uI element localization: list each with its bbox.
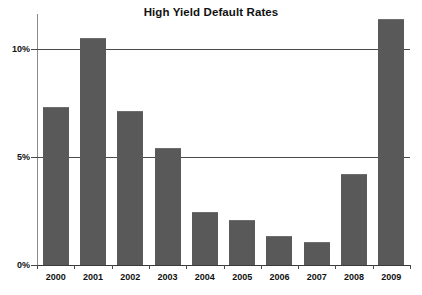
bar-chart: High Yield Default Rates 0% 5% 10% 20002… <box>0 0 422 295</box>
x-tick-5 <box>224 265 225 269</box>
x-axis-label-2002: 2002 <box>120 272 140 282</box>
y-axis-labels: 0% 5% 10% <box>0 0 30 295</box>
bar-2002 <box>117 111 143 265</box>
x-tick-9 <box>373 265 374 269</box>
x-tick-1 <box>74 265 75 269</box>
bar-2000 <box>43 107 69 265</box>
x-axis-label-2006: 2006 <box>269 272 289 282</box>
bar-2004 <box>192 212 218 265</box>
x-tick-4 <box>186 265 187 269</box>
plot-area <box>37 14 410 265</box>
x-axis-label-2007: 2007 <box>307 272 327 282</box>
x-tick-6 <box>261 265 262 269</box>
x-tick-7 <box>298 265 299 269</box>
bar-2003 <box>155 148 181 265</box>
y-axis-label-1: 5% <box>2 152 30 162</box>
y-axis-label-0: 0% <box>2 260 30 270</box>
x-axis-label-2001: 2001 <box>83 272 103 282</box>
x-axis-ticks <box>37 265 410 270</box>
x-axis-label-2004: 2004 <box>195 272 215 282</box>
bar-2009 <box>378 19 404 265</box>
x-tick-0 <box>37 265 38 269</box>
bar-2005 <box>229 220 255 265</box>
x-tick-8 <box>335 265 336 269</box>
bar-2006 <box>266 236 292 265</box>
x-axis-label-2000: 2000 <box>46 272 66 282</box>
x-tick-10 <box>410 265 411 269</box>
x-tick-2 <box>112 265 113 269</box>
bar-2008 <box>341 174 367 265</box>
x-axis-label-2005: 2005 <box>232 272 252 282</box>
y-axis-label-2: 10% <box>2 44 30 54</box>
x-axis-label-2009: 2009 <box>381 272 401 282</box>
x-tick-3 <box>149 265 150 269</box>
bar-2007 <box>304 242 330 265</box>
x-axis-label-2008: 2008 <box>344 272 364 282</box>
x-axis-label-2003: 2003 <box>158 272 178 282</box>
bar-2001 <box>80 38 106 265</box>
